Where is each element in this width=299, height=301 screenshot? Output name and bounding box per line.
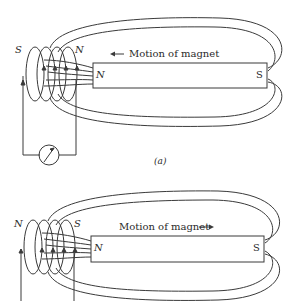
- coil-left-pole-label-b: N: [14, 218, 23, 229]
- magnet-far-pole-label-b: S: [253, 242, 260, 253]
- coil-right-pole-label-b: S: [74, 218, 81, 229]
- caption-a: (a): [154, 156, 166, 166]
- coil-left-pole-label-a: S: [15, 44, 22, 55]
- motion-label-b: Motion of magnet: [119, 221, 209, 232]
- motion-label-a: Motion of magnet: [129, 48, 219, 59]
- magnet-near-pole-label-b: N: [94, 242, 103, 253]
- magnet-near-pole-label-a: N: [96, 69, 105, 80]
- magnet-far-pole-label-a: S: [256, 69, 263, 80]
- coil-right-pole-label-a: N: [75, 44, 84, 55]
